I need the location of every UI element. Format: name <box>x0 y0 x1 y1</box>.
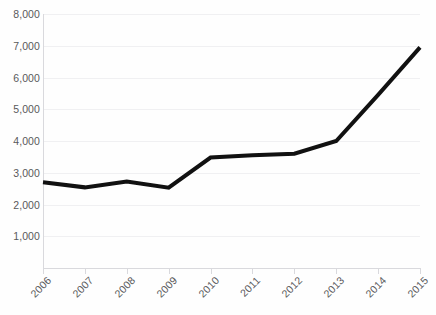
line-chart: 1,0002,0003,0004,0005,0006,0007,0008,000… <box>0 0 436 315</box>
data-series-layer <box>0 0 436 315</box>
series-line <box>43 47 420 187</box>
